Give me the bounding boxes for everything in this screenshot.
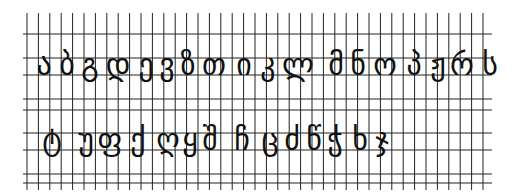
letter-glyph: წ <box>306 122 322 157</box>
letter-glyph: რ <box>450 47 474 82</box>
letter-glyph: უ <box>78 122 94 157</box>
letter-glyph: ღ <box>156 122 180 157</box>
letter-glyph: ყ <box>182 122 198 157</box>
letter-glyph: ჯ <box>375 122 389 157</box>
letter-glyph: ც <box>261 122 278 157</box>
letter-glyph: ზ <box>180 47 195 82</box>
letter-glyph: ძ <box>284 122 300 157</box>
letter-glyph: გ <box>81 47 98 82</box>
letter-glyph: თ <box>202 47 226 82</box>
letter-glyph: პ <box>406 47 421 82</box>
letter-glyph: დ <box>106 47 131 82</box>
letter-glyph: ლ <box>282 47 314 82</box>
letter-glyph: ნ <box>350 47 366 82</box>
letter-glyph: ჭ <box>327 122 343 157</box>
georgian-letters: აბგდევზთიკლმნოპჟრსტუფქღყშჩცძწჭხჯ <box>36 47 497 157</box>
letter-glyph: ქ <box>130 122 145 157</box>
letter-glyph: ჩ <box>234 122 250 157</box>
letter-glyph: ბ <box>59 47 75 82</box>
letter-glyph: ფ <box>98 122 123 157</box>
handwriting-practice-sheet: აბგდევზთიკლმნოპჟრსტუფქღყშჩცძწჭხჯ <box>0 0 516 194</box>
letter-glyph: ტ <box>42 122 62 157</box>
letter-glyph: ხ <box>352 122 368 157</box>
letter-glyph: ო <box>373 47 397 82</box>
letter-glyph: მ <box>328 47 344 82</box>
letter-glyph: ი <box>236 47 252 82</box>
ruled-grid <box>23 13 492 190</box>
letter-glyph: კ <box>260 47 275 82</box>
letter-glyph: ვ <box>159 47 174 82</box>
letter-glyph: ა <box>36 47 51 82</box>
letter-glyph: ე <box>138 47 153 82</box>
letter-glyph: ჟ <box>430 47 446 82</box>
letter-glyph: შ <box>202 122 218 157</box>
letter-glyph: ს <box>482 47 498 82</box>
